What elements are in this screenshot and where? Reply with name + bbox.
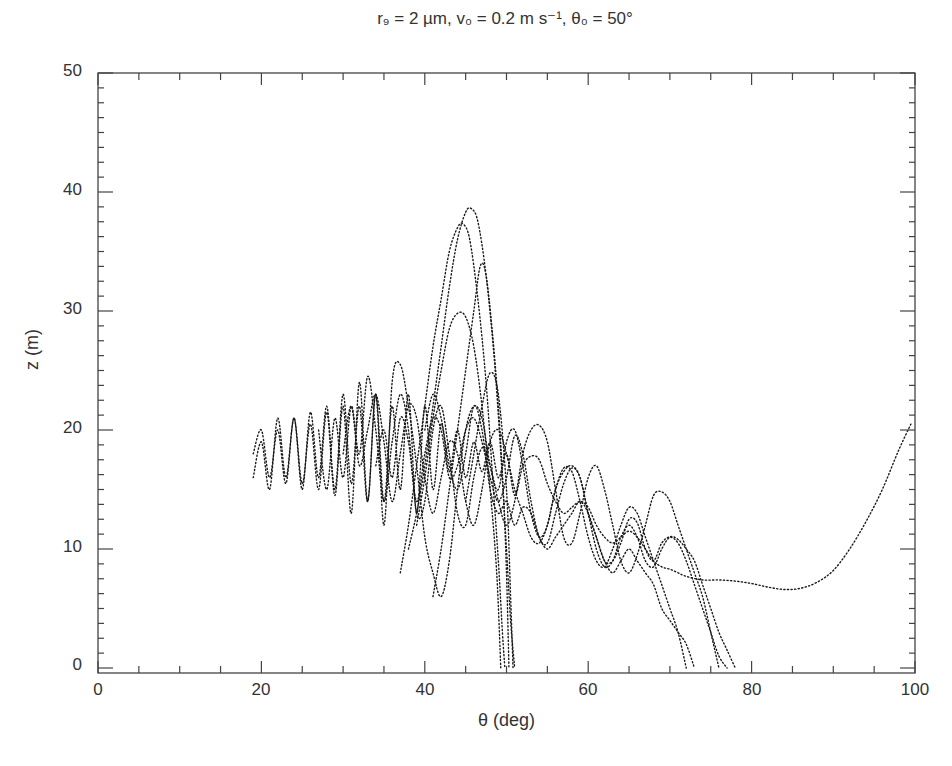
y-tick-label: 20 bbox=[40, 418, 82, 438]
trajectory-dots bbox=[253, 208, 911, 668]
trajectory-peak-38 bbox=[408, 208, 514, 668]
plot-area bbox=[0, 0, 952, 766]
x-axis-label: θ (deg) bbox=[98, 710, 915, 731]
x-tick-label: 40 bbox=[395, 680, 455, 700]
x-tick-label: 80 bbox=[722, 680, 782, 700]
x-tick-label: 20 bbox=[231, 680, 291, 700]
trajectory-long bbox=[253, 394, 911, 589]
y-tick-label: 10 bbox=[40, 537, 82, 557]
chart-title: r₉ = 2 µm, v₀ = 0.2 m s⁻¹, θ₀ = 50° bbox=[0, 8, 952, 29]
trajectory-osc-3 bbox=[343, 394, 727, 668]
y-tick-label: 50 bbox=[40, 61, 82, 81]
y-tick-label: 40 bbox=[40, 180, 82, 200]
x-tick-label: 0 bbox=[68, 680, 128, 700]
trajectory-peak-25 bbox=[466, 372, 513, 668]
trajectory-osc-1 bbox=[253, 361, 686, 668]
y-tick-label: 30 bbox=[40, 299, 82, 319]
trajectory-peak-30 bbox=[417, 312, 501, 668]
y-axis-label: z (m) bbox=[22, 329, 43, 370]
y-tick-label: 0 bbox=[40, 655, 82, 675]
x-tick-label: 100 bbox=[885, 680, 945, 700]
x-tick-label: 60 bbox=[558, 680, 618, 700]
